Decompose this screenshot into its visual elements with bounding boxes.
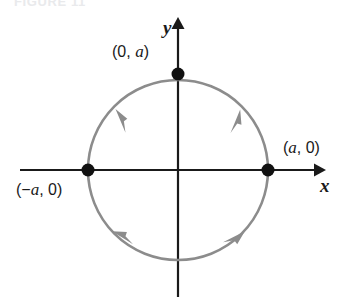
point-left-label: (−a, 0) — [16, 180, 62, 199]
direction-arrow-lower-right — [223, 227, 245, 246]
y-axis-arrowhead — [172, 17, 185, 29]
direction-arrow-upper-right — [225, 109, 246, 133]
point-left-dot — [82, 164, 95, 177]
direction-arrow-upper-left — [111, 109, 131, 133]
figure-container: FIGURE 11 y x — [0, 0, 344, 301]
point-right-dot — [262, 164, 275, 177]
circle-diagram: y x (0, a) (a, 0) (−a, 0) — [0, 0, 344, 301]
x-axis — [20, 164, 326, 177]
point-right-label: (a, 0) — [283, 138, 320, 157]
x-axis-label: x — [319, 175, 330, 196]
point-top-dot — [172, 68, 185, 81]
y-axis — [172, 17, 185, 297]
y-axis-label: y — [161, 17, 172, 38]
point-top-label: (0, a) — [112, 42, 149, 61]
